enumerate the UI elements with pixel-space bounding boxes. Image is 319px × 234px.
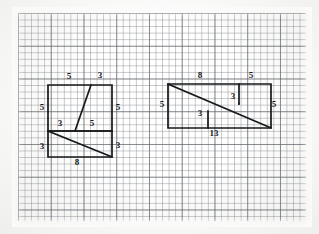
figure-layer: 5 3 5 5 3 5 3 3 8 8 5 5 5 3 3 13 <box>0 0 319 234</box>
label-right-top-8: 8 <box>198 71 203 80</box>
diagram-page: 5 3 5 5 3 5 3 3 8 8 5 5 5 3 3 13 <box>0 0 319 234</box>
right-long-diagonal <box>168 84 271 128</box>
label-left-side-5: 5 <box>40 103 45 112</box>
label-left-bottom-8: 8 <box>75 158 80 167</box>
left-steep-diagonal <box>75 85 91 131</box>
label-left-top-5: 5 <box>67 72 72 81</box>
label-right-side-5: 5 <box>116 103 121 112</box>
label-right-top-5: 5 <box>249 71 254 80</box>
label-left-lower-3: 3 <box>40 142 45 151</box>
left-shallow-diagonal <box>48 131 112 157</box>
label-left-top-3: 3 <box>98 71 103 80</box>
label-right-inner-3-hi: 3 <box>231 92 236 101</box>
label-right-inner-3-lo: 3 <box>198 109 203 118</box>
label-left-mid-3: 3 <box>58 119 63 128</box>
label-right-left-5: 5 <box>160 100 165 109</box>
label-right-lower-3: 3 <box>116 141 121 150</box>
label-left-mid-5: 5 <box>90 119 95 128</box>
right-figure-paths <box>168 84 271 128</box>
label-right-bottom-13: 13 <box>210 129 219 138</box>
geometry-drawing <box>0 0 319 234</box>
label-right-right-5: 5 <box>272 100 277 109</box>
